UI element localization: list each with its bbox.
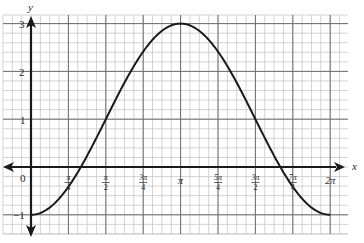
grid-minor bbox=[3, 15, 348, 234]
y-tick-neg1: −1 bbox=[13, 209, 25, 221]
y-tick-3: 3 bbox=[19, 18, 25, 30]
origin-label: 0 bbox=[20, 172, 26, 184]
x-tick-numerator: 3π bbox=[250, 173, 260, 182]
x-tick-numerator: 3π bbox=[138, 173, 148, 182]
x-tick-denominator: 2 bbox=[104, 183, 108, 192]
x-tick-denominator: 2 bbox=[253, 183, 257, 192]
grid-major bbox=[3, 15, 348, 234]
x-tick-denominator: 4 bbox=[141, 183, 145, 192]
x-axis-label: x bbox=[351, 160, 357, 172]
y-axis-label: y bbox=[27, 1, 33, 13]
x-tick-numerator: 5π bbox=[214, 173, 223, 182]
x-tick-denominator: 4 bbox=[216, 183, 220, 192]
x-tick-denominator: 4 bbox=[66, 183, 70, 192]
sinusoid-chart: π4π23π4π5π43π27π42π y x 3 2 1 0 −1 bbox=[0, 0, 364, 243]
y-tick-2: 2 bbox=[19, 66, 25, 78]
x-tick-numerator: π bbox=[66, 173, 71, 182]
x-tick-numerator: π bbox=[104, 173, 109, 182]
y-tick-1: 1 bbox=[20, 114, 26, 126]
x-tick-label: 2π bbox=[325, 175, 336, 186]
x-tick-numerator: 7π bbox=[289, 173, 298, 182]
x-tick-denominator: 4 bbox=[291, 183, 295, 192]
